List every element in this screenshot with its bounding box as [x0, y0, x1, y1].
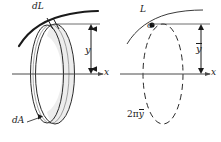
label-2pi-prefix: 2π — [127, 109, 139, 119]
label-y-left: y — [85, 45, 91, 55]
label-2piy-overbar: y — [139, 110, 144, 119]
label-C-centroid: C — [147, 22, 153, 30]
left-panel-group — [12, 11, 104, 124]
L-curve — [127, 10, 203, 44]
label-x-axis-left: x — [104, 68, 109, 77]
label-L: L — [140, 5, 146, 14]
label-circumference: 2πy — [127, 110, 144, 119]
label-dA: dA — [12, 116, 24, 125]
label-dL: dL — [32, 2, 44, 11]
label-y-bar-overbar: y — [196, 44, 202, 54]
ybar-dim-arrow-top — [198, 24, 204, 30]
pappus-guldinus-figure: dL dA y x L C y x 2πy — [0, 0, 221, 142]
label-y-bar-right: y — [196, 44, 202, 54]
label-x-axis-right: x — [211, 68, 216, 77]
y-dim-arrow-top-left — [88, 24, 94, 30]
ybar-dim-arrow-bottom — [198, 68, 204, 74]
figure-canvas — [0, 0, 221, 142]
y-dim-arrow-bottom-left — [88, 68, 94, 74]
right-panel-group — [120, 10, 211, 124]
